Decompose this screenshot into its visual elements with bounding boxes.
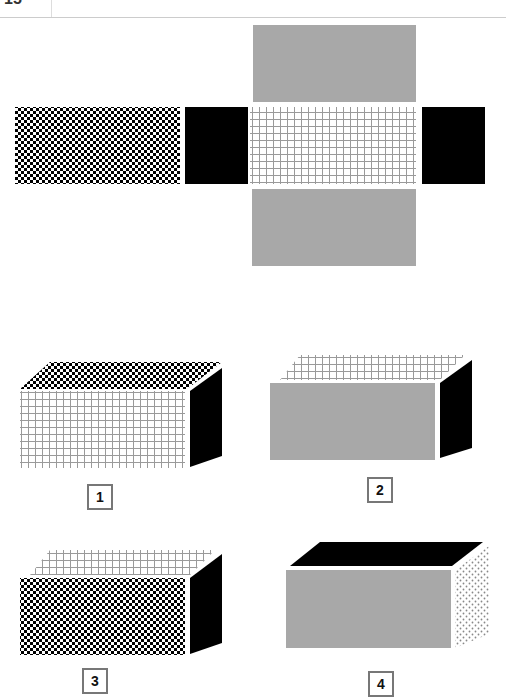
option-3-label[interactable]: 3: [82, 668, 108, 694]
net-face-top: [253, 25, 416, 102]
net-face-bottom: [252, 189, 416, 266]
net-face-right-side: [422, 107, 485, 184]
option-4-box: [286, 542, 489, 648]
net-face-left-side: [185, 107, 248, 184]
option-1-label[interactable]: 1: [87, 484, 113, 510]
option-2-box: [270, 355, 472, 460]
option-4-label[interactable]: 4: [368, 671, 394, 697]
figure-canvas: [0, 0, 506, 698]
option-3-box: [20, 550, 222, 655]
net-face-center: [250, 107, 416, 184]
net-face-left-end: [15, 107, 180, 184]
option-2-label[interactable]: 2: [367, 477, 393, 503]
option-1-box: [20, 362, 222, 468]
cuboid-net: [15, 25, 485, 266]
